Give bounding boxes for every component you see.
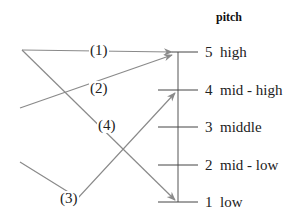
diagram-title: pitch bbox=[216, 11, 242, 23]
scale-level-name: high bbox=[220, 44, 247, 60]
scale-level-number: 5 bbox=[205, 44, 213, 60]
scale-level-1: 1 low bbox=[205, 195, 243, 210]
pitch-contour-diagram bbox=[0, 0, 299, 220]
scale-level-name: mid - high bbox=[220, 82, 283, 98]
scale-level-4: 4 mid - high bbox=[205, 83, 283, 98]
scale-level-number: 3 bbox=[205, 119, 213, 135]
scale-level-name: mid - low bbox=[220, 157, 278, 173]
scale-level-name: low bbox=[220, 194, 243, 210]
contour-2-label: (2) bbox=[89, 81, 109, 96]
scale-level-5: 5 high bbox=[205, 45, 247, 60]
scale-level-3: 3 middle bbox=[205, 120, 262, 135]
scale-level-number: 2 bbox=[205, 157, 213, 173]
scale-level-2: 2 mid - low bbox=[205, 158, 278, 173]
contour-1-label: (1) bbox=[89, 43, 109, 58]
contour-3-line bbox=[20, 93, 175, 198]
scale-level-number: 4 bbox=[205, 82, 213, 98]
contour-3-label: (3) bbox=[59, 191, 79, 206]
contour-4-label: (4) bbox=[97, 118, 117, 133]
scale-level-number: 1 bbox=[205, 194, 213, 210]
scale-level-name: middle bbox=[220, 119, 262, 135]
